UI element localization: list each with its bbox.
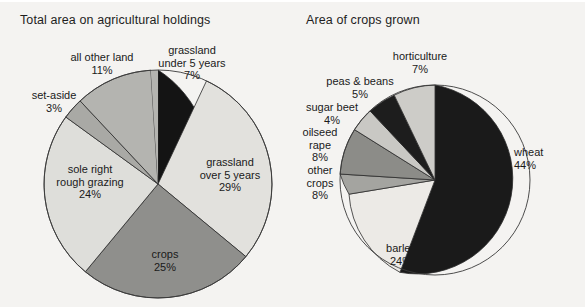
pie-label-sole-right-line1: sole right [68, 163, 113, 175]
pie-label-barley: barley 24% [370, 242, 432, 267]
pie-label-horticulture-pct: 7% [378, 63, 462, 76]
pie-label-barley-line1: barley [386, 242, 416, 254]
pie-label-all-other-land-line1: all other land [71, 51, 134, 63]
pie-label-peas-and-beans-pct: 5% [316, 88, 404, 101]
pie-label-crops: crops 25% [130, 248, 200, 273]
pie-label-all-other-land: all other land 11% [56, 51, 148, 76]
figure-canvas: Total area on agricultural holdings gras… [0, 0, 585, 307]
pie-label-sole-right-pct: 24% [42, 188, 138, 201]
pie-label-crops-line1: crops [152, 248, 179, 260]
pie-label-grassland-under-5: grassland under 5 years 7% [144, 44, 240, 82]
pie-label-grassland-under-5-line1: grassland [168, 44, 216, 56]
pie-label-grassland-over-5: grassland over 5 years 29% [185, 156, 275, 194]
pie-label-grassland-over-5-pct: 29% [185, 181, 275, 194]
pie-label-peas-and-beans: peas & beans 5% [316, 75, 404, 100]
pie-label-sugar-beet: sugar beet 4% [294, 101, 370, 126]
pie-label-all-other-land-pct: 11% [56, 64, 148, 77]
pie-label-grassland-under-5-pct: 7% [144, 69, 240, 82]
pie-label-crops-pct: 25% [130, 261, 200, 274]
pie-label-grassland-over-5-line1: grassland [206, 156, 254, 168]
pie-label-sugar-beet-line1: sugar beet [306, 101, 358, 113]
pie-label-other-crops-line1: other [307, 164, 332, 176]
pie-label-wheat-pct: 44% [514, 159, 584, 172]
chart-panel-total-area: Total area on agricultural holdings gras… [0, 0, 292, 307]
pie-label-sole-right-rough-grazing: sole right rough grazing 24% [42, 163, 138, 201]
pie-label-wheat-line1: wheat [514, 146, 543, 158]
pie-label-horticulture: horticulture 7% [378, 50, 462, 75]
pie-label-oilseed-rape-pct: 8% [294, 151, 346, 164]
pie-label-set-aside: set-aside 3% [18, 89, 90, 114]
pie-label-oilseed-rape: oilseed rape 8% [294, 126, 346, 164]
pie-label-oilseed-rape-line1: oilseed [303, 126, 338, 138]
pie-label-grassland-under-5-line2: under 5 years [158, 57, 225, 69]
pie-label-set-aside-line1: set-aside [32, 89, 77, 101]
pie-label-set-aside-pct: 3% [18, 102, 90, 115]
chart-panel-area-of-crops: Area of crops grown wheat 44% barley [292, 0, 585, 307]
pie-label-grassland-over-5-line2: over 5 years [200, 169, 261, 181]
pie-label-sole-right-line2: rough grazing [56, 176, 123, 188]
pie-label-oilseed-rape-line2: rape [309, 139, 331, 151]
pie-label-horticulture-line1: horticulture [393, 50, 447, 62]
pie-label-wheat: wheat 44% [514, 146, 584, 171]
pie-label-other-crops: other crops 8% [296, 164, 344, 202]
pie-label-sugar-beet-pct: 4% [294, 114, 370, 127]
pie-label-other-crops-line2: crops [307, 177, 334, 189]
pie-label-other-crops-pct: 8% [296, 189, 344, 202]
pie-label-barley-pct: 24% [370, 255, 432, 268]
pie-label-peas-and-beans-line1: peas & beans [326, 75, 393, 87]
